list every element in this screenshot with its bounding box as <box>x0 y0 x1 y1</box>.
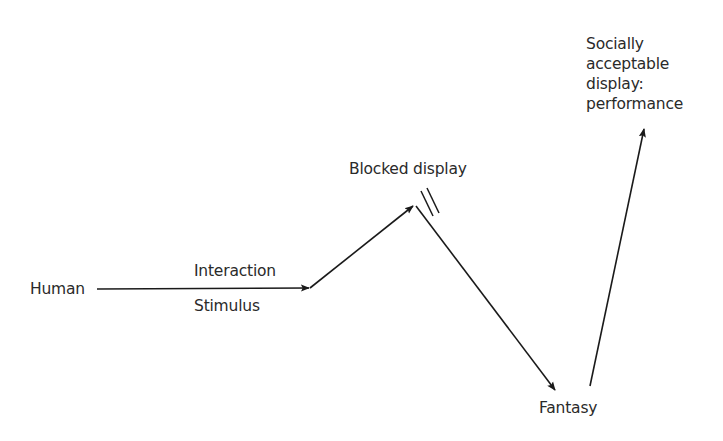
edge-fantasy-to-performance <box>590 129 644 386</box>
edge-human-to-stimulus <box>97 288 309 289</box>
social-line-1: Socially <box>586 34 683 54</box>
node-blocked-display: Blocked display <box>349 159 467 179</box>
social-line-4: performance <box>586 94 683 114</box>
edge-stimulus-to-blocked <box>310 206 413 288</box>
edge-label-stimulus: Stimulus <box>194 296 260 316</box>
social-line-2: acceptable <box>586 54 683 74</box>
social-line-3: display: <box>586 74 683 94</box>
node-human: Human <box>30 279 85 299</box>
blocked-mark-2 <box>427 188 439 213</box>
edge-blocked-to-fantasy <box>416 206 555 390</box>
edge-label-interaction: Interaction <box>194 261 276 281</box>
node-fantasy: Fantasy <box>539 398 597 418</box>
blocked-mark-1 <box>421 191 433 216</box>
node-social-performance: Socially acceptable display: performance <box>586 34 683 114</box>
